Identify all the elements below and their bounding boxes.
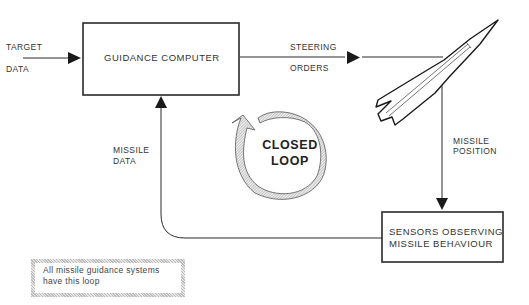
guidance-computer-label: GUIDANCE COMPUTER [104,52,220,64]
steering-orders-arrow [240,51,443,64]
closed-loop-label-line2: LOOP [258,153,322,169]
steering-orders-label-line1: STEERING [290,42,337,53]
closed-loop-label-line1: CLOSED [258,137,322,153]
sensors-label-line1: SENSORS OBSERVING [389,226,503,238]
closed-loop-label: CLOSED LOOP [258,137,322,169]
missile-data-label-line2: DATA [113,156,136,167]
note-box: All missile guidance systems have this l… [31,259,185,297]
missile-data-label-line1: MISSILE [113,145,149,156]
sensors-label-line2: MISSILE BEHAVIOUR [389,238,503,250]
target-data-arrow [23,52,81,64]
note-text-line1: All missile guidance systems [43,265,173,276]
missile-position-label-line2: POSITION [453,146,497,157]
missile-position-arrow [436,85,448,210]
target-data-label-line1: TARGET [6,42,42,53]
missile-icon [376,20,498,125]
note-text-line2: have this loop [43,276,173,287]
note-text: All missile guidance systems have this l… [35,263,181,293]
sensors-label: SENSORS OBSERVING MISSILE BEHAVIOUR [389,226,503,250]
steering-orders-label-line2: ORDERS [290,63,329,74]
target-data-label-line2: DATA [6,64,29,75]
